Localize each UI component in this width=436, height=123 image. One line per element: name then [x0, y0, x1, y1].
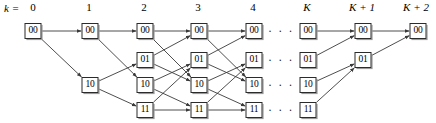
trellis-node-cK-s11: 11	[300, 102, 317, 118]
trellis-node-c4-s11: 11	[246, 102, 263, 118]
node-state-label: 00	[86, 26, 95, 36]
node-state-label: 01	[359, 55, 368, 65]
node-state-label: 10	[250, 80, 259, 90]
trellis-node-c2-s10: 10	[137, 77, 154, 93]
column-header-cK: K	[303, 1, 310, 13]
node-state-label: 11	[195, 105, 204, 115]
node-state-label: 10	[86, 80, 95, 90]
column-header-c1: 1	[86, 1, 92, 13]
node-state-label: 01	[195, 55, 204, 65]
trellis-edge-c3s00-to-c4s10	[207, 39, 246, 77]
trellis-edge-c0s00-to-c1s10	[41, 39, 81, 77]
trellis-edge-c2s00-to-c3s10	[153, 39, 191, 77]
node-state-label: 00	[359, 26, 368, 36]
trellis-node-cK1-s01: 01	[355, 52, 372, 68]
trellis-node-c2-s01: 01	[137, 52, 154, 68]
trellis-node-cK2-s00: 00	[410, 23, 427, 39]
column-header-c2: 2	[141, 1, 147, 13]
trellis-node-c2-s11: 11	[137, 102, 154, 118]
node-state-label: 10	[141, 80, 150, 90]
column-header-c4: 4	[250, 1, 256, 13]
node-state-label: 11	[141, 105, 150, 115]
trellis-node-c3-s10: 10	[191, 77, 208, 93]
node-state-label: 00	[195, 26, 204, 36]
node-state-label: 11	[304, 105, 313, 115]
column-header-cK1: K + 1	[349, 1, 375, 13]
ellipsis-s00: · · ·	[268, 24, 294, 39]
trellis-edge-cKs01-to-cK1s00	[317, 35, 355, 55]
trellis-node-c1-s10: 10	[82, 77, 99, 93]
trellis-node-c4-s10: 10	[246, 77, 263, 93]
node-state-label: 00	[29, 26, 38, 36]
trellis-node-cK1-s00: 00	[355, 23, 372, 39]
trellis-node-c1-s00: 00	[82, 23, 99, 39]
trellis-edge-cK1s01-to-cK2s00	[372, 35, 410, 55]
node-state-label: 00	[141, 26, 150, 36]
column-header-c0: 0	[30, 1, 36, 13]
trellis-edge-c1s10-to-c2s11	[99, 89, 137, 106]
ellipsis-s01: · · ·	[268, 53, 294, 68]
trellis-node-c0-s00: 00	[25, 23, 42, 39]
trellis-edge-c1s10-to-c2s01	[99, 64, 137, 81]
trellis-edge-c2s11-to-c3s01	[154, 68, 191, 102]
node-state-label: 00	[250, 26, 259, 36]
column-header-c3: 3	[195, 1, 201, 13]
node-state-label: 10	[304, 80, 313, 90]
trellis-node-c3-s00: 00	[191, 23, 208, 39]
column-header-cK2: K + 2	[403, 1, 429, 13]
node-state-label: 00	[414, 26, 423, 36]
trellis-node-cK-s01: 01	[300, 52, 317, 68]
trellis-node-cK-s10: 10	[300, 77, 317, 93]
trellis-node-c4-s01: 01	[246, 52, 263, 68]
node-state-label: 01	[141, 55, 150, 65]
node-state-label: 01	[250, 55, 259, 65]
trellis-edge-c1s00-to-c2s10	[98, 39, 137, 77]
ellipsis-s11: · · ·	[268, 103, 294, 118]
node-state-label: 01	[304, 55, 313, 65]
node-state-label: 00	[304, 26, 313, 36]
trellis-node-c4-s00: 00	[246, 23, 263, 39]
ellipsis-s10: · · ·	[268, 78, 294, 93]
node-state-label: 10	[195, 80, 204, 90]
trellis-node-c3-s11: 11	[191, 102, 208, 118]
trellis-node-c2-s00: 00	[137, 23, 154, 39]
node-state-label: 11	[250, 105, 259, 115]
trellis-node-cK-s00: 00	[300, 23, 317, 39]
trellis-node-c3-s01: 01	[191, 52, 208, 68]
trellis-edges	[41, 31, 409, 110]
trellis-diagram: k = 01234KK + 1K + 2 0000100001101100011…	[0, 0, 436, 123]
